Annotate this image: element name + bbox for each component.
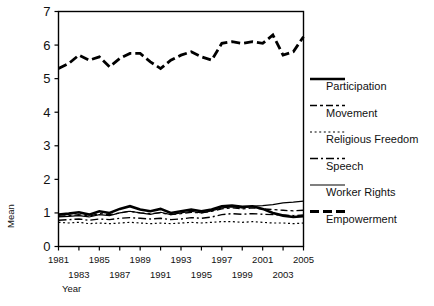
series-line-religious-freedom xyxy=(59,222,304,224)
series-line-empowerment xyxy=(59,35,304,69)
x-tick-label-1985: 1985 xyxy=(89,254,110,265)
y-tick-label-0: 0 xyxy=(43,239,50,254)
legend-label-participation: Participation xyxy=(326,80,387,92)
chart-legend: ParticipationMovementReligious FreedomSp… xyxy=(310,79,418,225)
legend-label-speech: Speech xyxy=(326,160,363,172)
y-axis-title: Mean xyxy=(5,204,16,228)
y-axis-tick-labels: 01234567 xyxy=(43,4,50,254)
y-tick-label-3: 3 xyxy=(43,138,50,153)
x-axis-tick-labels: 1981198519891993199720012005198319871991… xyxy=(48,254,314,280)
y-tick-label-6: 6 xyxy=(43,38,50,53)
y-tick-label-2: 2 xyxy=(43,172,50,187)
x-tick-label-1991: 1991 xyxy=(150,269,171,280)
legend-label-movement: Movement xyxy=(326,107,377,119)
x-axis-title: Year xyxy=(62,283,81,294)
chart-figure: 01234567 1981198519891993199720012005198… xyxy=(0,0,434,306)
x-tick-label-1987: 1987 xyxy=(109,269,130,280)
y-tick-label-5: 5 xyxy=(43,71,50,86)
x-tick-label-1999: 1999 xyxy=(232,269,253,280)
data-series-group xyxy=(59,35,304,224)
y-tick-label-7: 7 xyxy=(43,4,50,19)
legend-label-religious-freedom: Religious Freedom xyxy=(326,133,418,145)
x-tick-label-1997: 1997 xyxy=(211,254,232,265)
legend-label-empowerment: Empowerment xyxy=(326,213,397,225)
x-tick-label-1995: 1995 xyxy=(191,269,212,280)
x-tick-label-1993: 1993 xyxy=(170,254,191,265)
x-tick-label-1981: 1981 xyxy=(48,254,69,265)
legend-label-worker-rights: Worker Rights xyxy=(326,186,396,198)
x-tick-label-1989: 1989 xyxy=(130,254,151,265)
x-tick-label-1983: 1983 xyxy=(68,269,89,280)
x-tick-label-2005: 2005 xyxy=(293,254,314,265)
x-tick-label-2001: 2001 xyxy=(252,254,273,265)
y-tick-label-1: 1 xyxy=(43,205,50,220)
x-tick-label-2003: 2003 xyxy=(273,269,294,280)
y-tick-label-4: 4 xyxy=(43,105,50,120)
